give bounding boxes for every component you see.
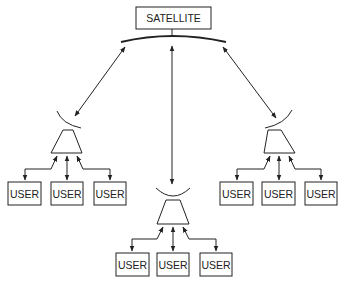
user-label: USER bbox=[306, 188, 336, 200]
user-label: USER bbox=[52, 188, 82, 200]
user-label: USER bbox=[201, 259, 231, 271]
dish-icon bbox=[57, 111, 81, 128]
dish-icon bbox=[265, 110, 292, 128]
ground-station-right bbox=[237, 110, 321, 180]
ground-station-center bbox=[132, 188, 216, 251]
satellite-label: SATELLITE bbox=[146, 12, 201, 24]
ground-station-left bbox=[25, 111, 110, 180]
link-left-station bbox=[75, 47, 125, 116]
user-label: USER bbox=[222, 188, 252, 200]
user-label: USER bbox=[95, 188, 125, 200]
station-body bbox=[264, 130, 295, 153]
dish-icon bbox=[156, 188, 190, 196]
user-label: USER bbox=[264, 188, 294, 200]
user-label: USER bbox=[10, 188, 40, 200]
station-body bbox=[51, 130, 82, 153]
satellite-network-diagram: SATELLITE USER USER USER USER USER USER … bbox=[0, 0, 344, 281]
link-right-station bbox=[223, 47, 276, 118]
user-label: USER bbox=[118, 259, 148, 271]
satellite-antenna-icon bbox=[121, 36, 226, 42]
user-label: USER bbox=[158, 259, 188, 271]
station-body bbox=[157, 200, 189, 224]
